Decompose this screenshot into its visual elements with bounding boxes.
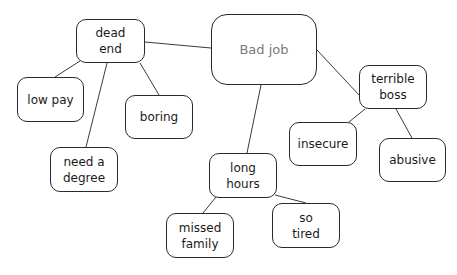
node-label: insecure: [298, 136, 349, 152]
edge-terrible-boss-to-abusive: [396, 109, 412, 138]
node-label: low pay: [27, 92, 73, 108]
node-so-tired: so tired: [272, 203, 340, 248]
edge-dead-end-to-boring: [140, 63, 159, 95]
edge-bad-job-to-dead-end: [145, 42, 211, 48]
edge-long-hours-to-missed-family: [203, 197, 216, 213]
node-label: dead end: [96, 25, 126, 57]
node-need-a-degree: need a degree: [50, 147, 118, 192]
node-abusive: abusive: [379, 138, 446, 182]
node-label: missed family: [179, 220, 222, 252]
edge-bad-job-to-terrible-boss: [317, 50, 359, 95]
node-missed-family: missed family: [166, 213, 234, 258]
edge-dead-end-to-need-a-degree: [86, 63, 107, 147]
edge-terrible-boss-to-insecure: [349, 109, 365, 122]
node-terrible-boss: terrible boss: [359, 65, 427, 109]
node-label: long hours: [226, 160, 260, 192]
node-label: boring: [140, 109, 178, 125]
node-insecure: insecure: [289, 122, 357, 166]
edge-long-hours-to-so-tired: [275, 195, 306, 203]
node-long-hours: long hours: [209, 153, 277, 198]
edge-dead-end-to-low-pay: [55, 61, 80, 77]
mind-map-canvas: Bad jobdead endterrible bosslow payborin…: [0, 0, 457, 275]
node-label: need a degree: [63, 154, 105, 186]
node-bad-job: Bad job: [211, 14, 317, 85]
node-label: Bad job: [239, 42, 288, 58]
node-label: terrible boss: [371, 71, 414, 103]
node-low-pay: low pay: [17, 77, 84, 122]
node-label: so tired: [292, 210, 320, 242]
node-boring: boring: [125, 95, 193, 139]
node-dead-end: dead end: [76, 19, 145, 63]
edge-bad-job-to-long-hours: [247, 85, 261, 153]
node-label: abusive: [389, 152, 436, 168]
